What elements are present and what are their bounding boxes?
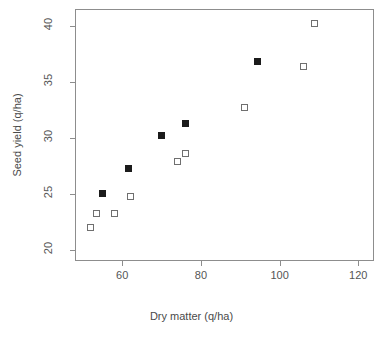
x-axis-tick-label: 80	[181, 269, 221, 281]
data-point-open-square	[111, 210, 118, 217]
x-axis-tick-label: 60	[102, 269, 142, 281]
data-point-open-square	[93, 210, 100, 217]
scatter-plot-figure: 20253035406080100120 Dry matter (q/ha) S…	[0, 0, 383, 339]
y-axis-tick	[70, 26, 75, 27]
x-axis-tick	[122, 261, 123, 266]
y-axis-tick-label: 35	[42, 65, 54, 95]
x-axis-tick	[358, 261, 359, 266]
x-axis-tick	[201, 261, 202, 266]
x-axis-tick-label: 120	[338, 269, 378, 281]
y-axis-tick	[70, 250, 75, 251]
data-point-filled-square	[182, 120, 189, 127]
data-point-open-square	[87, 224, 94, 231]
y-axis-tick	[70, 82, 75, 83]
data-point-open-square	[311, 20, 318, 27]
data-point-open-square	[182, 150, 189, 157]
y-axis-title: Seed yield (q/ha)	[8, 9, 26, 261]
x-axis-tick	[280, 261, 281, 266]
data-point-filled-square	[158, 132, 165, 139]
x-axis-tick-label: 100	[260, 269, 300, 281]
data-point-open-square	[300, 63, 307, 70]
y-axis-tick-label: 25	[42, 177, 54, 207]
plot-area	[75, 9, 374, 261]
data-point-open-square	[127, 193, 134, 200]
data-point-open-square	[241, 104, 248, 111]
data-point-filled-square	[125, 165, 132, 172]
y-axis-tick-label: 20	[42, 233, 54, 263]
y-axis-tick	[70, 138, 75, 139]
data-point-filled-square	[99, 190, 106, 197]
y-axis-tick-label: 40	[42, 9, 54, 39]
data-point-filled-square	[254, 58, 261, 65]
y-axis-tick-label: 30	[42, 121, 54, 151]
y-axis-tick	[70, 194, 75, 195]
data-point-open-square	[174, 158, 181, 165]
x-axis-title: Dry matter (q/ha)	[0, 310, 383, 322]
